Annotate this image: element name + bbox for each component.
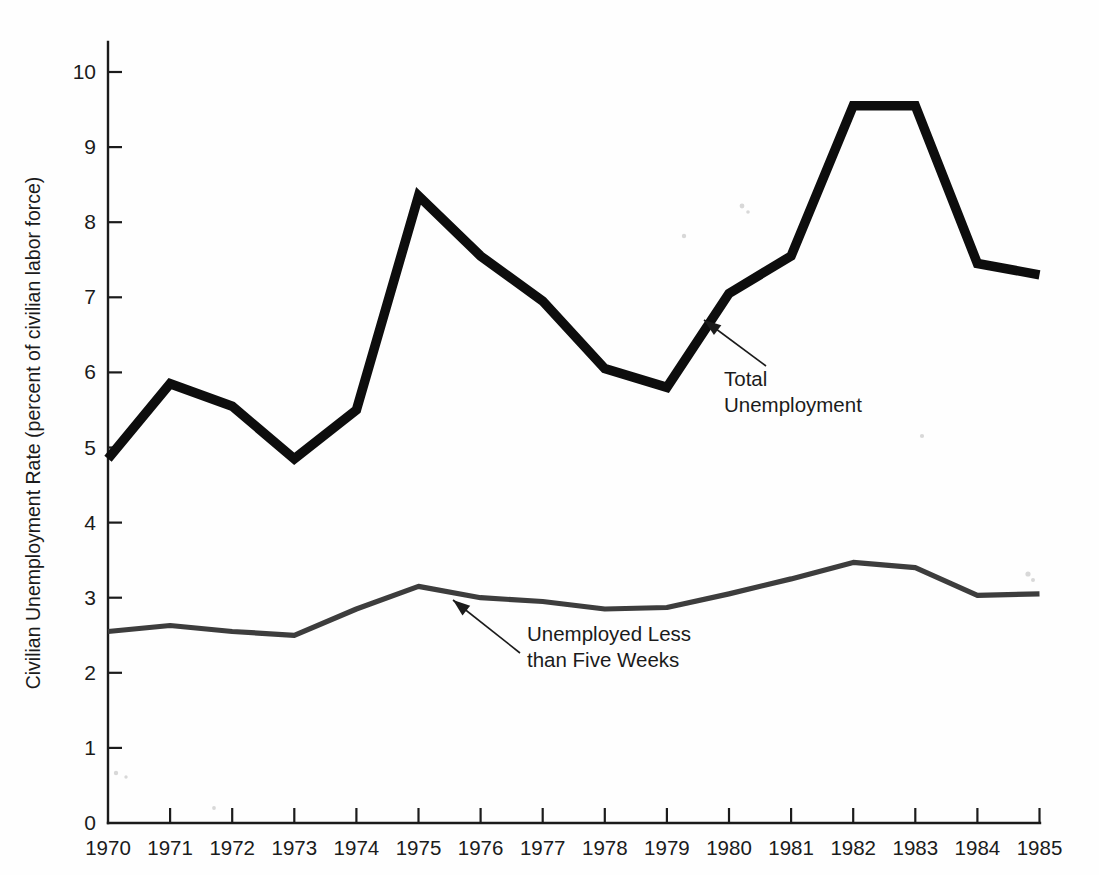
x-tick-label-1970: 1970	[85, 836, 131, 859]
y-tick-label-3: 3	[84, 586, 96, 609]
x-tick-label-1977: 1977	[520, 836, 566, 859]
y-tick-label-10: 10	[73, 60, 96, 83]
y-axis-title: Civilian Unemployment Rate (percent of c…	[22, 177, 44, 690]
x-tick-label-1976: 1976	[458, 836, 504, 859]
y-tick-label-7: 7	[84, 285, 96, 308]
series-line-total-unemployment	[108, 106, 1040, 459]
y-axis-ticks	[108, 72, 122, 748]
annotation-label-line-2: Unemployment	[724, 393, 862, 416]
y-tick-label-4: 4	[84, 511, 96, 534]
y-tick-label-1: 1	[84, 736, 96, 759]
x-tick-label-1983: 1983	[892, 836, 938, 859]
x-tick-label-1975: 1975	[396, 836, 442, 859]
annotation-unemployed-less-than-five-weeks: Unemployed Less than Five Weeks	[453, 600, 691, 671]
x-tick-label-1980: 1980	[706, 836, 752, 859]
x-tick-label-1979: 1979	[644, 836, 690, 859]
y-tick-label-8: 8	[84, 210, 96, 233]
chart-figure: 012345678910 197019711972197319741975197…	[0, 0, 1099, 875]
annotation-label-line-1: Unemployed Less	[527, 622, 691, 645]
x-tick-label-1974: 1974	[334, 836, 380, 859]
x-axis-ticks	[170, 808, 1039, 823]
x-tick-label-1972: 1972	[209, 836, 255, 859]
x-tick-label-1971: 1971	[147, 836, 193, 859]
y-tick-label-2: 2	[84, 661, 96, 684]
series-group	[108, 106, 1040, 636]
unemployment-line-chart: 012345678910 197019711972197319741975197…	[0, 0, 1099, 875]
x-tick-label-1973: 1973	[271, 836, 317, 859]
annotation-label-line-1: Total	[724, 367, 767, 390]
y-tick-label-9: 9	[84, 135, 96, 158]
scan-speckles	[114, 204, 1035, 810]
x-tick-label-1982: 1982	[830, 836, 876, 859]
annotation-total-unemployment: Total Unemployment	[704, 320, 862, 416]
x-tick-label-1984: 1984	[955, 836, 1001, 859]
y-tick-label-6: 6	[84, 360, 96, 383]
annotation-label-line-2: than Five Weeks	[527, 648, 679, 671]
annotation-arrowhead	[453, 600, 470, 615]
x-tick-label-1981: 1981	[768, 836, 814, 859]
chart-axes	[108, 42, 1040, 823]
y-axis-tick-labels: 012345678910	[73, 60, 97, 834]
x-axis-tick-labels: 1970197119721973197419751976197719781979…	[85, 836, 1062, 859]
y-tick-label-0: 0	[84, 811, 96, 834]
x-tick-label-1985: 1985	[1017, 836, 1063, 859]
y-tick-label-5: 5	[84, 436, 96, 459]
x-tick-label-1978: 1978	[582, 836, 628, 859]
